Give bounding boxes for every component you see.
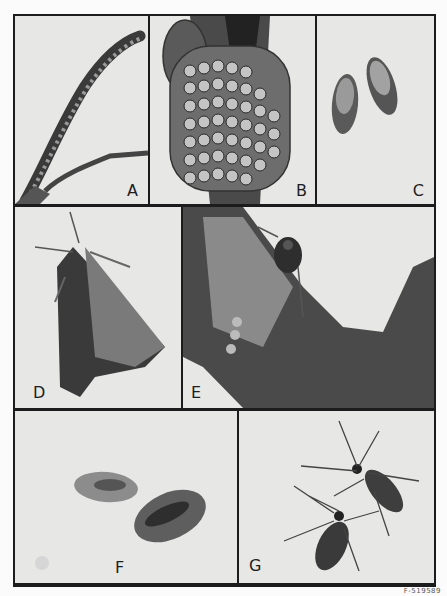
panel-c: C: [317, 16, 434, 204]
panel-label: G: [249, 556, 261, 575]
panel-g: G: [239, 411, 434, 583]
panel-label: D: [33, 383, 45, 402]
panel-a: A: [15, 16, 148, 204]
panel-label: F: [115, 558, 124, 577]
panel-label: E: [191, 383, 201, 402]
panel-label: B: [296, 181, 307, 200]
pupae-image: [317, 16, 434, 204]
wasp-on-bark-image: [183, 207, 434, 408]
panel-f: F: [15, 411, 237, 583]
caterpillar-image: [15, 16, 148, 204]
wasps-image: [239, 411, 434, 583]
panel-d: D: [15, 207, 181, 408]
photo-plate: A B C: [13, 14, 436, 587]
panel-label: C: [413, 181, 424, 200]
panel-e: E: [183, 207, 434, 408]
panel-label: A: [127, 181, 138, 200]
egg-mass-image: [150, 16, 315, 204]
panel-b: B: [150, 16, 315, 204]
moth-image: [15, 207, 181, 408]
cocoons-image: [15, 411, 237, 583]
plate-caption: F-519589: [404, 587, 441, 595]
